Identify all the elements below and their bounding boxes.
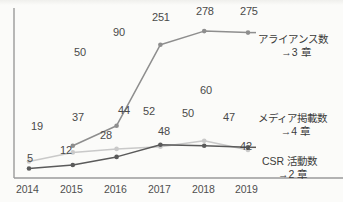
x-tick-label-2018: 2018 [192,184,215,195]
data-point-marker [202,144,207,149]
data-value-label: 19 [31,121,43,132]
x-tick-label-2016: 2016 [104,184,127,195]
series-legend-name: CSR 活動数 [262,155,317,167]
data-value-label: 60 [200,85,212,96]
x-tick-label-2017: 2017 [148,184,171,195]
data-value-label: 50 [74,47,86,58]
x-tick-label-2014: 2014 [16,184,39,195]
data-value-label: 48 [158,126,170,137]
data-point-marker [27,166,32,171]
data-point-marker [114,155,119,160]
data-value-label: 251 [152,12,170,23]
data-point-marker [114,123,119,128]
series-legend-note: メディア掲載数→4 章 [258,112,327,139]
series-legend-note: アライアンス数→3 章 [258,33,328,60]
data-point-marker [114,147,119,152]
data-point-marker [202,139,207,144]
series-legend-note: CSR 活動数→2 章 [262,155,317,182]
series-legend-chapter-ref: →4 章 [258,125,327,138]
data-point-marker [158,42,163,47]
data-point-marker [158,143,163,148]
data-value-label: 42 [240,141,252,152]
data-point-marker [202,29,207,34]
data-value-label: 44 [118,105,130,116]
data-value-label: 50 [182,108,194,119]
data-value-label: 47 [223,112,235,123]
x-tick-label-2015: 2015 [60,184,83,195]
data-value-label: 5 [27,153,33,164]
series-legend-chapter-ref: →2 章 [262,168,317,181]
data-value-label: 37 [72,112,84,123]
series-legend-name: アライアンス数 [258,33,328,45]
data-value-label: 275 [240,6,258,17]
data-value-label: 12 [60,145,72,156]
series-legend-chapter-ref: →3 章 [258,46,328,59]
data-point-marker [71,163,76,168]
data-value-label: 52 [143,106,155,117]
data-value-label: 278 [196,6,214,17]
legend-leader-lines [248,33,256,148]
series-legend-name: メディア掲載数 [258,112,327,124]
data-value-label: 90 [113,27,125,38]
x-tick-label-2019: 2019 [235,184,258,195]
data-value-label: 28 [100,130,112,141]
line-chart: 201420152016201720182019 509025127827519… [0,0,343,202]
